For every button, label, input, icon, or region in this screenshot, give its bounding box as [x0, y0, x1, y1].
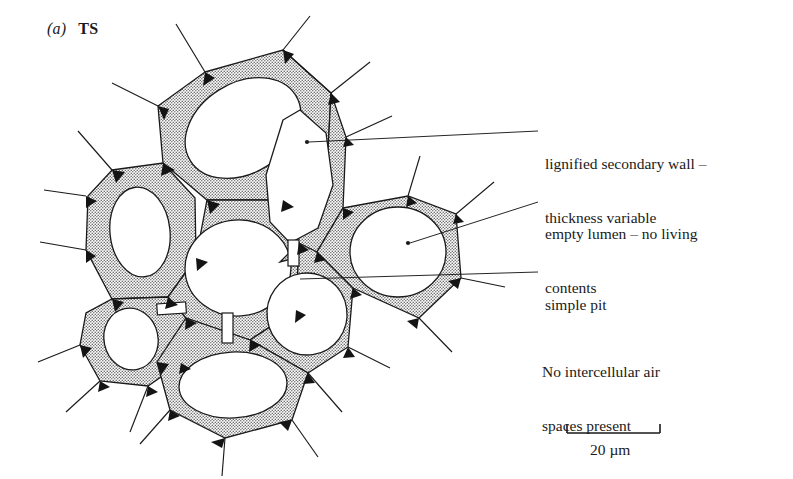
- cell-lumen: [350, 207, 446, 297]
- leader-dot-lumen: [406, 241, 410, 245]
- annotation-line-2: spaces present: [542, 417, 660, 435]
- simple-pit-lower: [222, 313, 233, 343]
- annotation-line-1: lignified secondary wall –: [545, 155, 706, 173]
- pit-channel: [222, 313, 233, 343]
- panel-name: TS: [78, 20, 98, 37]
- scale-bar-label: 20 µm: [590, 441, 630, 459]
- leader-dot-wall: [305, 140, 309, 144]
- figure-root: (a)TS lignified secondary wall – thickne…: [0, 0, 793, 479]
- panel-label: (a)TS: [47, 20, 98, 38]
- cell-bottom: [150, 310, 320, 445]
- cell-right: [305, 185, 475, 330]
- annotation-line-1: empty lumen – no living: [545, 225, 697, 243]
- annotation-line-1: simple pit: [545, 296, 607, 314]
- annotation-line-1: No intercellular air: [542, 363, 660, 381]
- panel-id: (a): [47, 20, 66, 37]
